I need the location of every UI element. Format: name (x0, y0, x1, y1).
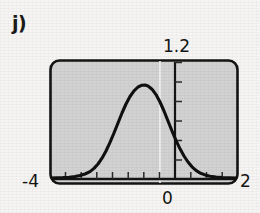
part-label: j) (12, 14, 26, 33)
origin-label: 0 (162, 190, 173, 207)
plot-area (49, 59, 239, 185)
figure-panel: j) (0, 0, 260, 213)
x-min-label: -4 (22, 173, 39, 190)
plot-svg (49, 59, 239, 185)
x-max-label: 2 (240, 173, 251, 190)
y-max-label: 1.2 (163, 38, 190, 55)
plot-background (51, 61, 238, 184)
